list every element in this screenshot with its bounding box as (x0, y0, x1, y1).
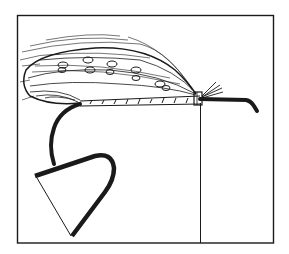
hook-eye (200, 99, 257, 111)
hook-bend (51, 104, 80, 164)
fly-body (80, 96, 200, 106)
fly-throat-fibers (202, 82, 223, 98)
fishing-fly-illustration (0, 0, 289, 254)
hook-point-line (37, 178, 71, 236)
fly-wing (24, 48, 196, 104)
wing-spots (58, 57, 170, 91)
frame-border (18, 16, 274, 244)
